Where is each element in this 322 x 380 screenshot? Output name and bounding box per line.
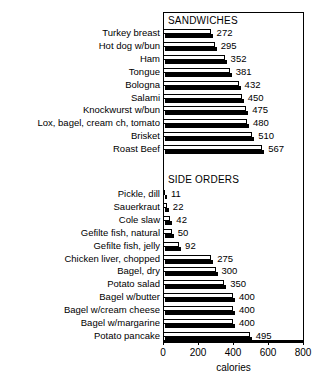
- x-tick-label: 400: [225, 347, 242, 358]
- bar-value-label: 352: [231, 54, 247, 64]
- x-tick-label: 200: [190, 347, 207, 358]
- bar-value-label: 275: [217, 254, 233, 264]
- bar-depth: [165, 234, 174, 238]
- category-label: Bagel w/cream cheese: [64, 305, 160, 315]
- bar-value-label: 272: [217, 28, 233, 38]
- category-label: Chicken liver, chopped: [64, 254, 160, 264]
- bar: [163, 42, 219, 51]
- bar-depth: [165, 60, 227, 64]
- bar-value-label: 11: [171, 189, 181, 199]
- category-label: Ham: [140, 54, 160, 64]
- section-header-side-orders: SIDE ORDERS: [168, 174, 239, 185]
- bar-depth: [165, 260, 213, 264]
- bar: [163, 267, 220, 276]
- bar-depth: [165, 150, 264, 154]
- bar-depth: [165, 324, 235, 328]
- bar: [163, 94, 246, 103]
- bar: [163, 255, 215, 264]
- bar-depth: [165, 221, 172, 225]
- bar: [163, 293, 237, 302]
- bar-depth: [165, 285, 226, 289]
- category-label: Hot dog w/bun: [99, 41, 160, 51]
- bar-value-label: 432: [245, 80, 261, 90]
- category-label: Bagel, dry: [117, 266, 160, 276]
- bar-depth: [165, 111, 248, 115]
- bar: [163, 190, 169, 199]
- bar-depth: [165, 86, 241, 90]
- category-label: Potato salad: [107, 279, 160, 289]
- category-label: Tongue: [129, 67, 160, 77]
- category-label: Roast Beef: [113, 144, 160, 154]
- category-label: Knockwurst w/bun: [83, 105, 160, 115]
- category-label: Brisket: [131, 131, 160, 141]
- bar-depth: [165, 298, 235, 302]
- bar-value-label: 42: [176, 215, 187, 225]
- bar-value-label: 567: [268, 144, 284, 154]
- bar-depth: [165, 34, 213, 38]
- bar-depth: [165, 247, 181, 251]
- category-label: Salami: [131, 93, 160, 103]
- category-label: Gefilte fish, jelly: [93, 241, 160, 251]
- bar-depth: [165, 137, 254, 141]
- bar: [163, 81, 243, 90]
- bar-depth: [165, 73, 232, 77]
- bar-depth: [165, 47, 217, 51]
- calories-bar-chart: SANDWICHES SIDE ORDERS Turkey breastHot …: [0, 0, 322, 380]
- bar-value-label: 22: [173, 202, 184, 212]
- bar-value-label: 50: [178, 228, 189, 238]
- category-label: Bagel w/margarine: [81, 318, 160, 328]
- bar-value-label: 300: [222, 266, 238, 276]
- bar-value-label: 450: [248, 93, 264, 103]
- bar-depth: [165, 195, 167, 199]
- x-tick-label: 600: [260, 347, 277, 358]
- bar: [163, 132, 256, 141]
- bar-value-label: 350: [230, 279, 246, 289]
- bar-value-label: 475: [252, 105, 268, 115]
- bar-depth: [165, 208, 169, 212]
- bar-value-label: 295: [221, 41, 237, 51]
- x-tick: [198, 341, 199, 345]
- bar: [163, 68, 234, 77]
- bar-depth: [165, 124, 249, 128]
- bar: [163, 242, 183, 251]
- bar-value-label: 400: [239, 292, 255, 302]
- bar: [163, 319, 237, 328]
- bar-value-label: 510: [258, 131, 274, 141]
- bar: [163, 280, 228, 289]
- section-header-sandwiches: SANDWICHES: [168, 15, 238, 26]
- bar: [163, 203, 171, 212]
- bar-value-label: 92: [185, 241, 196, 251]
- bar: [163, 229, 176, 238]
- category-label: Bologna: [125, 80, 160, 90]
- bar-depth: [165, 99, 244, 103]
- x-tick: [163, 341, 164, 345]
- category-label: Lox, bagel, cream ch, tomato: [37, 118, 160, 128]
- bar: [163, 29, 215, 38]
- bar: [163, 55, 229, 64]
- bar: [163, 332, 254, 341]
- x-tick-label: 800: [295, 347, 312, 358]
- x-axis-title: calories: [163, 362, 304, 373]
- bar-depth: [165, 272, 218, 276]
- category-label: Sauerkraut: [114, 202, 160, 212]
- bar: [163, 216, 174, 225]
- bar-value-label: 381: [236, 67, 252, 77]
- bar-value-label: 480: [253, 118, 269, 128]
- bar-value-label: 495: [256, 331, 272, 341]
- category-label: Cole slaw: [119, 215, 160, 225]
- x-tick-label: 0: [160, 347, 166, 358]
- category-label: Turkey breast: [102, 28, 160, 38]
- x-tick: [268, 341, 269, 345]
- bar: [163, 119, 251, 128]
- bar-depth: [165, 311, 235, 315]
- bar: [163, 306, 237, 315]
- bar-value-label: 400: [239, 318, 255, 328]
- category-label: Potato pancake: [94, 331, 160, 341]
- bar: [163, 145, 266, 154]
- bar-value-label: 400: [239, 305, 255, 315]
- x-tick: [233, 341, 234, 345]
- category-label: Pickle, dill: [118, 189, 160, 199]
- category-label: Bagel w/butter: [99, 292, 160, 302]
- x-tick: [303, 341, 304, 345]
- bar: [163, 106, 250, 115]
